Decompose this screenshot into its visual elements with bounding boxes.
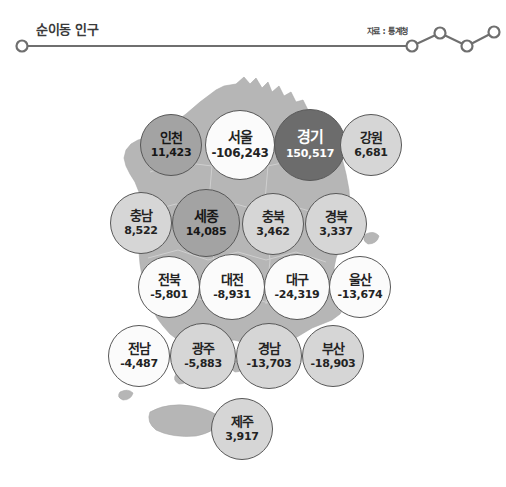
header: 순이동 인구 자료 : 통계청 (0, 0, 506, 66)
region-bubble-울산[interactable]: 울산-13,674 (329, 256, 391, 318)
region-bubble-인천[interactable]: 인천11,423 (140, 114, 202, 176)
region-name: 경북 (325, 210, 348, 224)
region-value: -106,243 (211, 147, 268, 160)
region-bubble-대구[interactable]: 대구-24,319 (264, 254, 330, 320)
region-name: 강원 (360, 131, 383, 145)
region-bubble-충북[interactable]: 충북3,462 (242, 193, 304, 255)
region-value: -18,903 (311, 358, 356, 370)
region-value: 11,423 (151, 147, 192, 159)
region-name: 전남 (128, 342, 151, 356)
region-name: 세종 (194, 209, 219, 224)
region-value: -5,801 (150, 289, 188, 301)
region-bubble-세종[interactable]: 세종14,085 (172, 189, 240, 257)
region-name: 충북 (262, 210, 285, 224)
region-name: 경기 (297, 130, 324, 146)
region-bubble-제주[interactable]: 제주3,917 (211, 398, 273, 460)
region-bubble-전북[interactable]: 전북-5,801 (138, 256, 200, 318)
region-bubble-대전[interactable]: 대전-8,931 (199, 254, 265, 320)
region-name: 대전 (221, 273, 244, 287)
region-name: 서울 (228, 130, 253, 145)
region-value: 14,085 (186, 226, 227, 238)
region-name: 경남 (258, 342, 281, 356)
region-bubble-서울[interactable]: 서울-106,243 (205, 110, 275, 180)
region-bubble-부산[interactable]: 부산-18,903 (302, 325, 364, 387)
region-bubble-전남[interactable]: 전남-4,487 (108, 325, 170, 387)
region-value: -8,931 (213, 289, 251, 301)
region-bubble-충남[interactable]: 충남8,522 (110, 192, 172, 254)
region-value: -24,319 (275, 289, 320, 301)
region-value: 3,462 (256, 226, 289, 238)
region-value: 6,681 (354, 147, 387, 159)
region-name: 인천 (160, 131, 183, 145)
region-value: -13,674 (338, 289, 383, 301)
region-name: 제주 (231, 415, 254, 429)
region-value: -13,703 (247, 358, 292, 370)
region-bubble-경북[interactable]: 경북3,337 (305, 193, 367, 255)
region-value: -4,487 (120, 358, 158, 370)
korea-bubble-map: 인천11,423서울-106,243경기150,517강원6,681충남8,52… (0, 62, 506, 487)
region-bubble-강원[interactable]: 강원6,681 (340, 114, 402, 176)
region-value: 3,917 (225, 431, 258, 443)
region-value: -5,883 (184, 358, 222, 370)
region-bubble-광주[interactable]: 광주-5,883 (170, 323, 236, 389)
region-bubble-경남[interactable]: 경남-13,703 (236, 323, 302, 389)
sparkline-icon (0, 24, 506, 58)
region-name: 부산 (322, 342, 345, 356)
region-name: 광주 (192, 342, 215, 356)
region-value: 8,522 (124, 225, 157, 237)
region-value: 3,337 (319, 226, 352, 238)
region-name: 충남 (130, 209, 153, 223)
region-name: 울산 (349, 273, 372, 287)
region-value: 150,517 (286, 148, 334, 160)
region-bubble-경기[interactable]: 경기150,517 (274, 109, 346, 181)
region-name: 전북 (158, 273, 181, 287)
region-name: 대구 (286, 273, 309, 287)
